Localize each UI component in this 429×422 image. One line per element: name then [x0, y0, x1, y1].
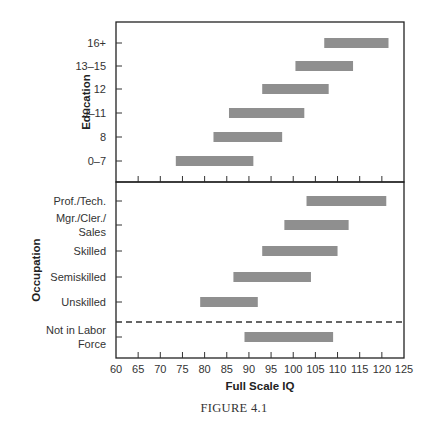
education-axis-title: Education — [80, 74, 92, 130]
occupation-bar — [284, 220, 348, 230]
occupation-axis-title: Occupation — [30, 238, 42, 301]
education-bar — [229, 108, 304, 118]
education-bars — [176, 38, 389, 166]
occupation-bar — [262, 246, 337, 256]
education-bar — [295, 61, 353, 71]
occupation-bar — [200, 297, 258, 307]
x-axis-title: Full Scale IQ — [225, 380, 294, 392]
occupation-label: Skilled — [74, 245, 106, 257]
x-tick-label: 105 — [306, 363, 324, 375]
education-label: 8 — [100, 131, 106, 143]
figure-caption: FIGURE 4.1 — [201, 401, 268, 415]
occupation-panel: Prof./Tech.Mgr./Cler./SalesSkilledSemisk… — [30, 182, 413, 375]
x-tick-label: 100 — [284, 363, 302, 375]
education-y-ticks — [116, 43, 122, 161]
x-tick-label: 95 — [265, 363, 277, 375]
education-panel: 16+13–15129–1180–7 Education — [75, 22, 404, 182]
occupation-bars — [200, 196, 386, 342]
x-tick-label: 115 — [351, 363, 369, 375]
x-tick-label: 80 — [198, 363, 210, 375]
occupation-y-tick-labels: Prof./Tech.Mgr./Cler./SalesSkilledSemisk… — [46, 195, 107, 350]
education-label: 0–7 — [88, 155, 106, 167]
x-tick-label: 60 — [110, 363, 122, 375]
x-tick-label: 65 — [132, 363, 144, 375]
education-label: 12 — [94, 83, 106, 95]
education-label: 13–15 — [75, 60, 106, 72]
occupation-label: Unskilled — [61, 296, 106, 308]
x-tick-label: 125 — [395, 363, 413, 375]
education-bar — [176, 156, 254, 166]
x-tick-label: 90 — [243, 363, 255, 375]
iq-range-chart: 16+13–15129–1180–7 Education Prof./Tech.… — [0, 0, 429, 422]
x-tick-label: 120 — [373, 363, 391, 375]
education-label: 16+ — [87, 37, 106, 49]
occupation-bar — [233, 272, 311, 282]
x-tick-label: 70 — [154, 363, 166, 375]
education-bar — [262, 84, 328, 94]
x-tick-label: 85 — [221, 363, 233, 375]
x-axis-tick-labels: 6065707580859095100105110115120125 — [110, 363, 413, 375]
occupation-x-ticks — [138, 352, 382, 358]
occupation-plot-frame — [116, 182, 404, 358]
occupation-label: Prof./Tech. — [53, 195, 106, 207]
x-tick-label: 110 — [329, 363, 347, 375]
x-tick-label: 75 — [176, 363, 188, 375]
education-bar — [324, 38, 388, 48]
occupation-label: Mgr./Cler./Sales — [56, 212, 107, 238]
occupation-label: Semiskilled — [50, 271, 106, 283]
education-x-ticks — [138, 176, 382, 182]
occupation-label: Not in LaborForce — [46, 324, 106, 350]
occupation-y-ticks — [116, 201, 122, 337]
occupation-bar — [307, 196, 387, 206]
occupation-bar — [244, 332, 333, 342]
education-bar — [213, 132, 282, 142]
